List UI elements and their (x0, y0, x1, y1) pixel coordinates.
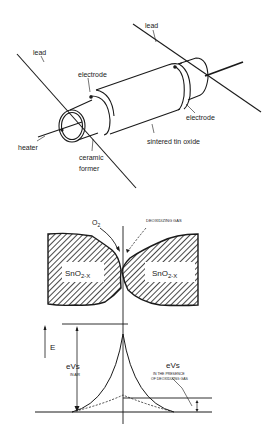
gas-sensor-figure: lead lead electrode electrode heater cer… (0, 0, 274, 426)
lead-wire-left (17, 54, 136, 188)
lead-wire-right (133, 24, 261, 112)
heater-wire-left (38, 122, 82, 137)
label-lead-right: lead (145, 22, 158, 29)
label-former: former (79, 165, 100, 172)
electrode-band-right (174, 64, 190, 110)
label-heater: heater (18, 144, 39, 151)
label-electrode-right: electrode (186, 114, 215, 121)
label-evs-air: eVs (66, 362, 80, 371)
label-energy-axis: E (50, 343, 55, 352)
grain-boundary-diagram (35, 226, 212, 424)
heater-wire-right (205, 62, 243, 76)
label-lead-left: lead (33, 49, 46, 56)
label-evs-air-note: IN AIR (70, 373, 81, 377)
label-deoxidizing-gas: DEOXIDIZING GAS (146, 218, 182, 223)
label-sintered-tin-oxide: sintered tin oxide (147, 138, 200, 145)
label-o2: O2 (92, 219, 100, 228)
label-evs-gas-note1: IN THE PRESENCE (153, 372, 185, 376)
electrode-band-left (90, 90, 114, 135)
label-evs-gas: eVs (166, 361, 180, 370)
end-cap-right (178, 58, 208, 100)
label-ceramic: ceramic (79, 154, 104, 161)
label-evs-gas-note2: OF DEOXIDIZING GAS (151, 377, 189, 381)
sensor-labels: lead lead electrode electrode heater cer… (18, 22, 215, 172)
sensor-drawing (17, 24, 261, 188)
deoxidizing-gas-arrow (128, 228, 146, 251)
label-electrode-left: electrode (78, 71, 107, 78)
